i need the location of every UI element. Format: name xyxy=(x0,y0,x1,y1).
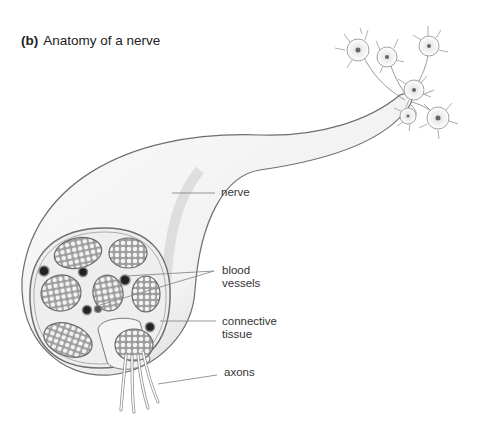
label-blood-vessels-line2: vessels xyxy=(222,277,260,290)
label-blood-vessels-line1: blood xyxy=(222,264,260,277)
label-connective-tissue-line2: tissue xyxy=(222,328,277,341)
label-blood-vessels: blood vessels xyxy=(222,264,260,290)
label-connective-tissue: connective tissue xyxy=(222,315,277,341)
leader-axons xyxy=(158,375,217,384)
label-axons: axons xyxy=(224,366,255,379)
label-connective-tissue-line1: connective xyxy=(222,315,277,328)
nerve-cross-section xyxy=(30,228,170,412)
label-nerve: nerve xyxy=(221,186,250,199)
